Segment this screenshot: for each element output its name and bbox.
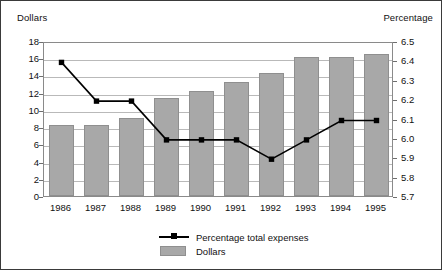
category-label-1994: 1994 bbox=[323, 202, 358, 213]
bar-1995 bbox=[364, 54, 390, 196]
left-axis-tick-label: 18 bbox=[9, 37, 39, 47]
left-axis-tick-label: 16 bbox=[9, 54, 39, 64]
chart-legend: Percentage total expenses Dollars bbox=[159, 230, 309, 258]
category-label-1988: 1988 bbox=[113, 202, 148, 213]
right-axis-tick-mark bbox=[393, 158, 397, 159]
category-label-1992: 1992 bbox=[253, 202, 288, 213]
right-axis-tick-label: 6.3 bbox=[401, 76, 435, 86]
left-axis-tick-label: 8 bbox=[9, 123, 39, 133]
bar-1987 bbox=[84, 125, 110, 197]
line-marker-key-icon bbox=[159, 231, 189, 243]
bar-1992 bbox=[259, 73, 285, 196]
left-axis-tick-label: 6 bbox=[9, 140, 39, 150]
bar-1990 bbox=[189, 91, 215, 196]
right-axis-tick-mark bbox=[393, 197, 397, 198]
bar-1994 bbox=[329, 57, 355, 196]
bar-swatch-key-icon bbox=[159, 245, 189, 257]
right-axis-tick-mark bbox=[393, 81, 397, 82]
left-axis-tick-label: 10 bbox=[9, 106, 39, 116]
right-axis-tick-mark bbox=[393, 120, 397, 121]
right-axis-tick-mark bbox=[393, 100, 397, 101]
line-marker-1988 bbox=[129, 98, 134, 103]
left-axis-tick-label: 4 bbox=[9, 158, 39, 168]
left-axis-tick-label: 2 bbox=[9, 175, 39, 185]
bar-1989 bbox=[154, 98, 180, 196]
left-axis-tick-mark bbox=[39, 197, 43, 198]
bar-1993 bbox=[294, 57, 320, 197]
right-axis-title: Percentage bbox=[383, 12, 433, 23]
category-label-1987: 1987 bbox=[78, 202, 113, 213]
right-axis-tick-mark bbox=[393, 61, 397, 62]
chart-figure: Dollars Percentage 0246810121416185.75.8… bbox=[0, 0, 442, 270]
right-axis-tick-label: 6.0 bbox=[401, 134, 435, 144]
right-axis-tick-label: 5.7 bbox=[401, 192, 435, 202]
left-axis-title: Dollars bbox=[17, 12, 47, 23]
legend-item-percentage: Percentage total expenses bbox=[159, 230, 309, 244]
bar-1991 bbox=[224, 82, 250, 197]
right-axis-tick-label: 6.4 bbox=[401, 56, 435, 66]
right-axis-tick-mark bbox=[393, 42, 397, 43]
right-axis-tick-mark bbox=[393, 139, 397, 140]
category-label-1990: 1990 bbox=[183, 202, 218, 213]
bar-1986 bbox=[49, 125, 75, 196]
category-label-1995: 1995 bbox=[358, 202, 393, 213]
right-axis-tick-label: 6.1 bbox=[401, 115, 435, 125]
category-label-1991: 1991 bbox=[218, 202, 253, 213]
legend-item-dollars: Dollars bbox=[159, 244, 309, 258]
left-axis-tick-label: 0 bbox=[9, 192, 39, 202]
right-axis-tick-label: 6.2 bbox=[401, 95, 435, 105]
left-axis-tick-label: 14 bbox=[9, 71, 39, 81]
left-axis-tick-label: 12 bbox=[9, 89, 39, 99]
category-label-1993: 1993 bbox=[288, 202, 323, 213]
category-label-1989: 1989 bbox=[148, 202, 183, 213]
line-marker-1987 bbox=[94, 98, 99, 103]
bar-1988 bbox=[119, 118, 145, 196]
right-axis-tick-label: 6.5 bbox=[401, 37, 435, 47]
plot-area bbox=[43, 42, 393, 197]
right-axis-tick-label: 5.9 bbox=[401, 153, 435, 163]
legend-label-dollars: Dollars bbox=[196, 246, 226, 257]
right-axis-tick-mark bbox=[393, 178, 397, 179]
right-axis-tick-label: 5.8 bbox=[401, 173, 435, 183]
legend-label-percentage: Percentage total expenses bbox=[196, 232, 309, 243]
category-label-1986: 1986 bbox=[43, 202, 78, 213]
